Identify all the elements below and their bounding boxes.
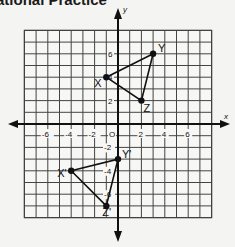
x-tick-label: O xyxy=(109,130,115,139)
y-tick-label: 2 xyxy=(108,97,113,106)
vertex-point xyxy=(150,51,156,57)
vertex-point xyxy=(103,74,109,80)
y-axis-down-arrow-icon xyxy=(114,231,122,242)
x-tick-label: -2 xyxy=(89,130,97,139)
y-axis-up-arrow-icon xyxy=(114,8,122,19)
y-tick-label: -2 xyxy=(104,143,112,152)
vertex-point xyxy=(115,156,121,162)
y-tick-label: -4 xyxy=(104,167,112,176)
vertex-label: Z xyxy=(143,102,150,114)
y-tick-label: 6 xyxy=(108,50,113,59)
vertex-label: Z' xyxy=(102,206,111,218)
x-axis-label: x xyxy=(223,112,229,121)
x-tick-label: -4 xyxy=(65,130,73,139)
x-axis-left-arrow-icon xyxy=(8,120,18,128)
vertex-label: X xyxy=(94,77,102,89)
x-axis-right-arrow-icon xyxy=(220,120,230,128)
x-tick-label: 6 xyxy=(185,130,190,139)
coordinate-plane: xy-6-4-2O246642-2-4-6XYZX'Y'Z' xyxy=(0,0,235,247)
x-tick-label: 2 xyxy=(138,130,143,139)
x-tick-label: -6 xyxy=(42,130,50,139)
x-tick-label: 4 xyxy=(162,130,167,139)
vertex-label: X' xyxy=(57,167,66,179)
vertex-label: Y xyxy=(158,42,166,54)
y-axis-label: y xyxy=(122,5,128,14)
vertex-point xyxy=(68,168,74,174)
vertex-label: Y' xyxy=(122,148,131,160)
